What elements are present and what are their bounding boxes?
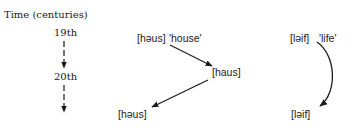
house-arrow-to-result-icon — [152, 80, 208, 107]
life-curved-arrow-icon — [317, 42, 332, 106]
arrows-layer — [0, 0, 358, 130]
house-arrow-to-middle-icon — [170, 45, 212, 66]
